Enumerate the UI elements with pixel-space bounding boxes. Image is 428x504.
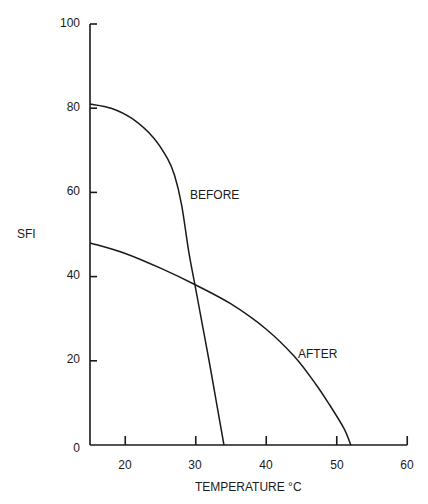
y-tick-label-0: 0 (50, 441, 80, 455)
x-tick-label-20: 20 (110, 458, 140, 472)
y-tick-label-60: 60 (50, 184, 80, 198)
series-line-before (90, 104, 224, 445)
x-tick-label-30: 30 (180, 458, 210, 472)
y-tick-label-20: 20 (50, 352, 80, 366)
y-axis-title: SFI (17, 227, 36, 241)
y-tick-label-80: 80 (50, 100, 80, 114)
y-tick-label-100: 100 (50, 16, 80, 30)
x-tick-label-60: 60 (392, 458, 422, 472)
series-label-after: AFTER (298, 347, 337, 361)
y-tick-label-40: 40 (50, 268, 80, 282)
chart-plot (0, 0, 428, 504)
x-axis-title: TEMPERATURE °C (195, 480, 302, 494)
x-tick-label-40: 40 (251, 458, 281, 472)
series-line-after (90, 243, 351, 445)
x-tick-label-50: 50 (322, 458, 352, 472)
series-label-before: BEFORE (190, 188, 239, 202)
